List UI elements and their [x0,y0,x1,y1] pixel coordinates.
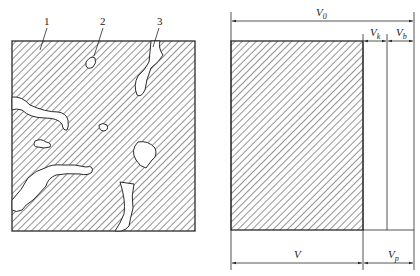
callout-label-1: 1 [44,15,50,27]
callout-label-3: 3 [157,15,163,27]
label-Vk: Vk [370,26,381,41]
closed-pore-small [99,124,108,132]
diagram-canvas: 1 2 3 V0 Vk [0,0,420,276]
label-V0: V0 [316,6,327,21]
dimension-Vk: Vk [364,26,386,41]
label-Vp: Vp [388,248,399,263]
label-Vb: Vb [396,26,407,41]
dimension-Vp: Vp [364,248,413,263]
dimension-V0: V0 [232,6,413,21]
volume-composition-figure: V0 Vk Vb V Vp [231,6,414,270]
callout-label-2: 2 [100,15,106,27]
solid-matrix [12,41,195,231]
solid-volume-block [231,41,363,230]
porous-material-figure: 1 2 3 [12,15,195,231]
label-V: V [294,248,302,260]
dimension-Vb: Vb [388,26,413,41]
dimension-V: V [232,248,362,263]
